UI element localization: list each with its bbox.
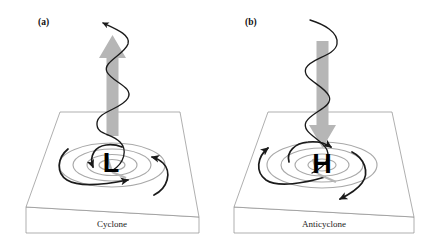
panel-cyclone: (a)	[26, 17, 199, 233]
panel-label-a: (a)	[38, 17, 49, 28]
low-pressure-symbol: L	[103, 148, 120, 178]
caption-cyclone: Cyclone	[97, 219, 127, 229]
panel-label-b: (b)	[245, 17, 257, 28]
high-pressure-symbol: H	[312, 149, 332, 179]
figure-container: (a)	[0, 0, 444, 247]
panel-anticyclone: (b)	[234, 17, 414, 233]
cyclone-anticyclone-diagram: (a)	[0, 0, 444, 247]
caption-anticyclone: Anticyclone	[302, 219, 346, 229]
